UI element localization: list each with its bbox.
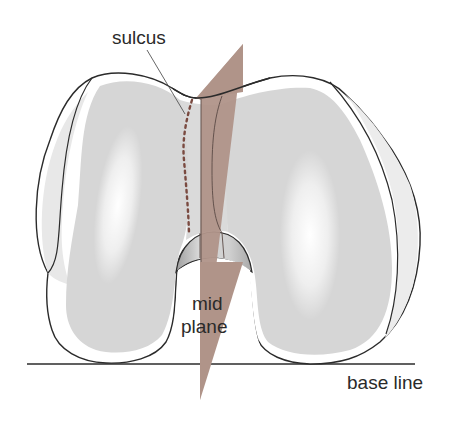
mid-plane-label-line2: plane: [181, 316, 228, 337]
knee-diagram: sulcus mid plane base line: [0, 0, 459, 427]
base-line-label: base line: [347, 372, 423, 393]
sulcus-label: sulcus: [112, 27, 166, 48]
mid-plane-label-line1: mid: [192, 293, 223, 314]
right-condyle-highlight: [280, 150, 340, 320]
